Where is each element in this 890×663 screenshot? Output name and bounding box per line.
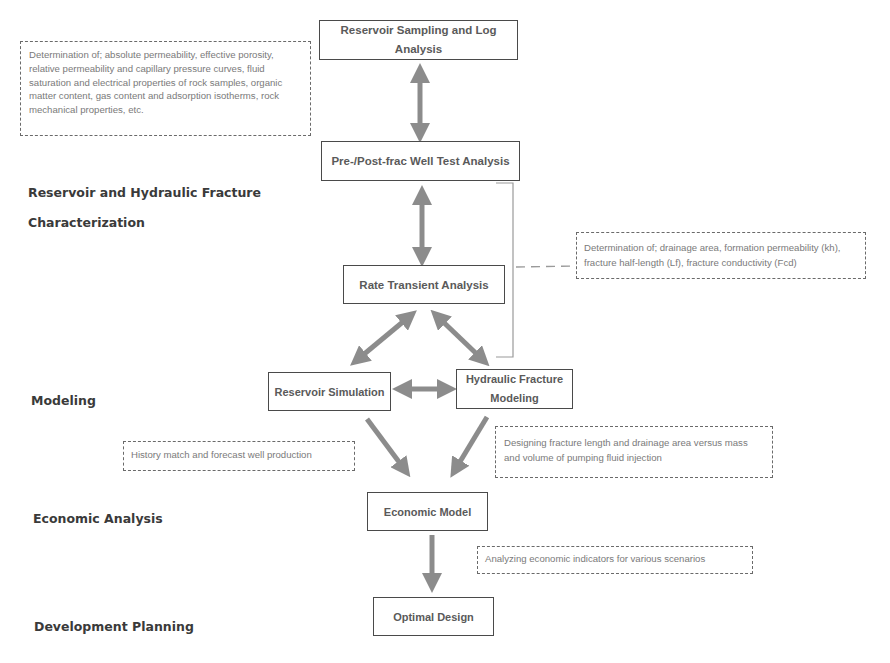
box-reservoir-simulation-label: Reservoir Simulation bbox=[274, 381, 384, 403]
stage-label-characterization-line2: Characterization bbox=[28, 215, 145, 230]
box-hydraulic-fracture-line1: Hydraulic Fracture bbox=[466, 370, 563, 389]
box-reservoir-sampling-line2: Analysis bbox=[395, 40, 442, 59]
box-rate-transient-analysis-label: Rate Transient Analysis bbox=[359, 274, 488, 296]
box-hydraulic-fracture-line2: Modeling bbox=[490, 389, 538, 408]
box-well-test-analysis: Pre-/Post-frac Well Test Analysis bbox=[321, 141, 520, 181]
stage-label-economic: Economic Analysis bbox=[33, 511, 163, 526]
box-economic-model-label: Economic Model bbox=[384, 501, 471, 523]
note-rta-determination: Determination of; drainage area, formati… bbox=[576, 232, 866, 279]
stage-label-modeling: Modeling bbox=[31, 393, 96, 408]
workflow-diagram: Reservoir and Hydraulic Fracture Charact… bbox=[0, 0, 890, 663]
note-history-match: History match and forecast well producti… bbox=[123, 441, 355, 471]
arrow-rta-hf bbox=[437, 316, 483, 360]
arrow-ressim-econ bbox=[367, 419, 405, 470]
note-fracture-design: Designing fracture length and drainage a… bbox=[495, 426, 773, 478]
box-well-test-analysis-label: Pre-/Post-frac Well Test Analysis bbox=[331, 150, 509, 172]
note-economic-indicators: Analyzing economic indicators for variou… bbox=[477, 546, 753, 574]
box-hydraulic-fracture-modeling: Hydraulic Fracture Modeling bbox=[456, 369, 573, 409]
bracket-connector bbox=[516, 266, 575, 267]
note-lab-determination-text: Determination of; absolute permeability,… bbox=[29, 49, 282, 115]
note-economic-indicators-text: Analyzing economic indicators for variou… bbox=[485, 553, 705, 564]
arrow-rta-ressim bbox=[357, 316, 410, 360]
box-economic-model: Economic Model bbox=[367, 492, 488, 531]
stage-label-development: Development Planning bbox=[34, 619, 194, 634]
box-rate-transient-analysis: Rate Transient Analysis bbox=[343, 265, 505, 304]
stage-label-characterization: Reservoir and Hydraulic Fracture bbox=[28, 185, 261, 200]
note-fracture-design-text: Designing fracture length and drainage a… bbox=[504, 437, 748, 463]
note-rta-determination-text: Determination of; drainage area, formati… bbox=[584, 242, 841, 268]
box-optimal-design-label: Optimal Design bbox=[393, 606, 474, 628]
box-reservoir-sampling-line1: Reservoir Sampling and Log bbox=[341, 21, 497, 40]
box-optimal-design: Optimal Design bbox=[373, 597, 494, 636]
arrow-hf-econ bbox=[455, 417, 487, 470]
note-history-match-text: History match and forecast well producti… bbox=[131, 449, 312, 460]
box-reservoir-simulation: Reservoir Simulation bbox=[268, 372, 391, 411]
note-lab-determination: Determination of; absolute permeability,… bbox=[20, 41, 311, 136]
box-reservoir-sampling: Reservoir Sampling and Log Analysis bbox=[319, 20, 518, 60]
